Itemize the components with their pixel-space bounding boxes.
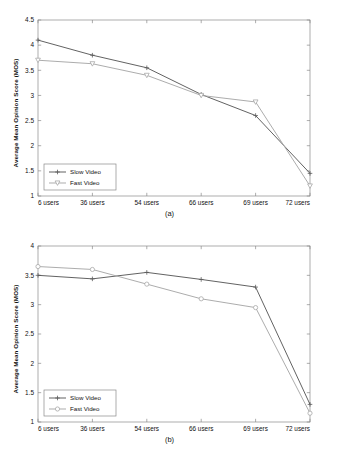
y-axis-tick-label: 2 — [30, 360, 34, 367]
legend: Slow VideoFast Video — [44, 390, 116, 416]
plot-area-a: 11.522.533.544.56 users36 users54 users6… — [0, 0, 339, 205]
y-axis-tick-label: 3 — [30, 301, 34, 308]
x-axis-tick-label: 66 users — [189, 425, 214, 431]
x-axis-tick-label: 72 users — [285, 425, 310, 431]
x-axis-tick-label: 6 users — [38, 425, 59, 431]
y-axis-tick-label: 4 — [30, 242, 34, 249]
data-point-marker — [36, 264, 40, 268]
series-line — [38, 272, 310, 404]
series-line — [38, 40, 310, 173]
x-axis-tick-label: 72 users — [285, 199, 310, 205]
x-axis-tick-label: 6 users — [38, 199, 59, 205]
y-axis-tick-label: 3.5 — [25, 67, 34, 74]
legend-label: Slow Video — [70, 168, 101, 175]
x-axis-tick-label: 66 users — [189, 199, 214, 205]
y-axis-tick-label: 1 — [30, 192, 34, 199]
x-axis-tick-label: 69 users — [243, 199, 268, 205]
data-point-marker — [254, 306, 258, 310]
series-slow-video — [36, 270, 313, 407]
x-axis-tick-label: 36 users — [80, 199, 105, 205]
x-axis-tick-label: 69 users — [243, 425, 268, 431]
y-axis-tick-label: 4.5 — [25, 16, 34, 23]
y-axis-tick-label: 3 — [30, 92, 34, 99]
legend-label: Fast Video — [70, 179, 100, 186]
y-axis-tick-label: 2 — [30, 142, 34, 149]
data-point-marker — [308, 411, 312, 415]
chart-panel-a: Average Mean Opinion Score (MOS) 11.522.… — [0, 0, 339, 226]
legend-label: Slow Video — [70, 394, 101, 401]
y-axis-tick-label: 1.5 — [25, 167, 34, 174]
legend-label: Fast Video — [70, 405, 100, 412]
x-axis-tick-label: 54 users — [135, 199, 160, 205]
y-axis-tick-label: 2.5 — [25, 330, 34, 337]
figure-root: Average Mean Opinion Score (MOS) 11.522.… — [0, 0, 339, 452]
data-point-marker — [199, 297, 203, 301]
data-point-marker — [145, 282, 149, 286]
data-point-marker — [55, 407, 59, 411]
plot-area-b: 11.522.533.546 users36 users54 users66 u… — [0, 226, 339, 431]
legend: Slow VideoFast Video — [44, 164, 116, 190]
y-axis-tick-label: 3.5 — [25, 272, 34, 279]
x-axis-tick-label: 36 users — [80, 425, 105, 431]
y-axis-tick-label: 1 — [30, 418, 34, 425]
x-axis-tick-label: 54 users — [135, 425, 160, 431]
chart-panel-b: Average Mean Opinion Score (MOS) 11.522.… — [0, 226, 339, 452]
y-axis-tick-label: 4 — [30, 41, 34, 48]
y-axis-tick-label: 2.5 — [25, 117, 34, 124]
subplot-caption-b: (b) — [0, 435, 339, 444]
y-axis-tick-label: 1.5 — [25, 389, 34, 396]
subplot-caption-a: (a) — [0, 209, 339, 218]
data-point-marker — [308, 184, 313, 188]
series-slow-video — [36, 38, 313, 176]
data-point-marker — [90, 267, 94, 271]
